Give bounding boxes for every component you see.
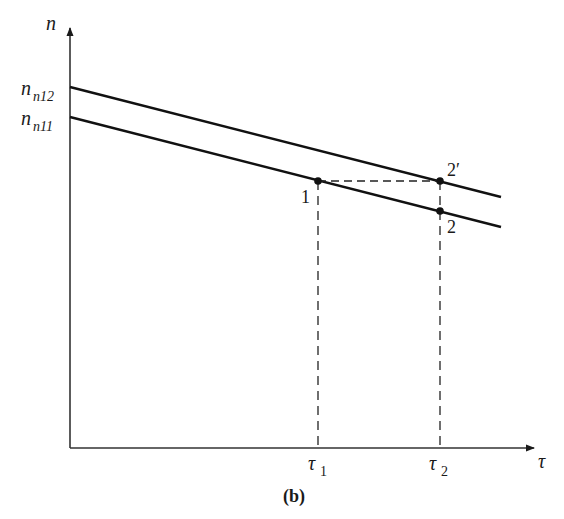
point-1-label: 1	[301, 187, 310, 207]
figure-caption: (b)	[283, 486, 305, 507]
svg-text:2: 2	[441, 464, 448, 479]
point-2-prime	[436, 177, 444, 185]
svg-text:n: n	[21, 107, 31, 129]
svg-text:τ: τ	[429, 452, 437, 474]
svg-text:n11: n11	[33, 119, 53, 134]
svg-text:1: 1	[320, 464, 327, 479]
x-tick-tau2: τ 2	[429, 452, 448, 479]
x-axis-label: τ	[538, 450, 546, 472]
diagram-canvas: 1 2′ 2 n τ n n12 n n11 τ 1 τ 2 (b)	[0, 0, 564, 519]
x-tick-tau1: τ 1	[308, 452, 327, 479]
svg-text:τ: τ	[308, 452, 316, 474]
y-tick-nn11: n n11	[21, 107, 53, 134]
point-2-label: 2	[447, 217, 456, 237]
point-2-prime-label: 2′	[447, 160, 460, 180]
y-tick-nn12: n n12	[21, 77, 54, 104]
svg-text:n: n	[21, 77, 31, 99]
svg-text:n12: n12	[33, 89, 54, 104]
y-axis-label: n	[46, 12, 56, 34]
point-2	[436, 207, 444, 215]
point-1	[314, 177, 322, 185]
